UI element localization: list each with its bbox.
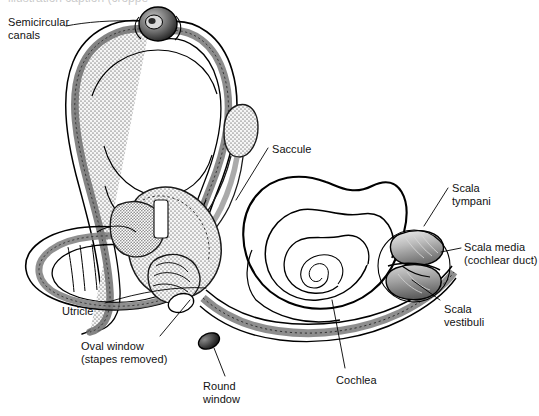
anterior-semicircular-canal xyxy=(66,21,151,334)
leader-scala-tympani xyxy=(424,188,448,226)
leader-round-window xyxy=(214,348,225,376)
label-scala-tympani: Scala tympani xyxy=(452,182,491,207)
cochlear-cross-section xyxy=(378,230,450,302)
round-window-opening xyxy=(196,330,222,353)
label-round-window: Round window xyxy=(203,380,240,405)
label-oval-window: Oval window (stapes removed) xyxy=(81,340,167,365)
label-cochlea: Cochlea xyxy=(336,374,377,387)
label-scala-media: Scala media (cochlear duct) xyxy=(464,241,538,266)
label-utricle: Utricle xyxy=(62,305,94,318)
label-scala-vestibuli: Scala vestibuli xyxy=(444,303,484,328)
inner-ear-diagram-page: illustration caption (cropped) xyxy=(0,0,539,416)
label-saccule: Saccule xyxy=(272,143,311,156)
label-semicircular-canals: Semicircular canals xyxy=(8,16,69,41)
